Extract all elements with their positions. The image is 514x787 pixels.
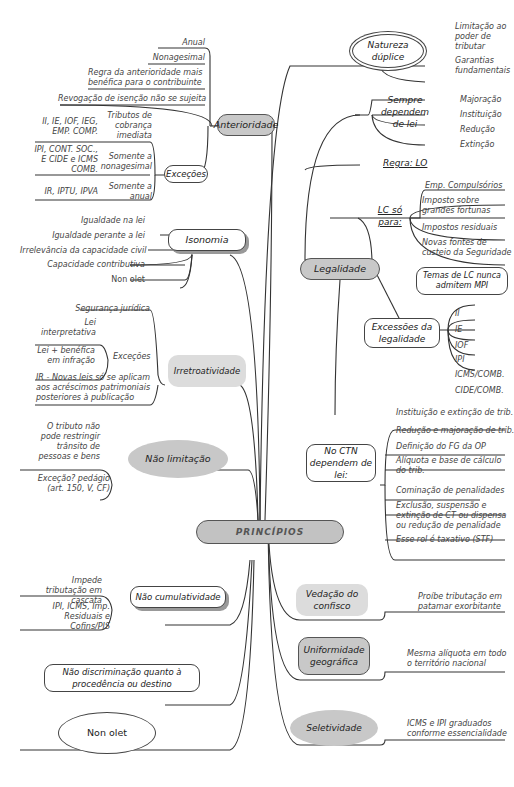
lc-item: Emp. Compulsórios: [425, 181, 502, 191]
nao-discriminacao-node[interactable]: Não discriminação quanto à procedência o…: [44, 664, 200, 692]
excecao-lei-benefica: Lei + benéfica em infração: [30, 346, 95, 366]
principios-root-node[interactable]: PRINCÍPIOS: [196, 520, 344, 544]
excessao-item: ICMS/COMB.: [455, 370, 504, 380]
regra-lo: Regra: LO: [383, 158, 427, 168]
excecao-lei-interpretativa: Lei interpretativa: [38, 318, 96, 338]
lc-nunca-mpi-note: Temas de LC nunca admitem MPI: [416, 267, 508, 295]
sempre-dependem-label: Sempre dependem de lei: [380, 93, 430, 131]
ctn-item: Definição do FG da OP: [396, 442, 486, 452]
nao-limitacao-node[interactable]: Não limitação: [128, 440, 228, 478]
isonomia-item: Irrelevância da capacidade civil: [20, 246, 145, 256]
excecoes-node[interactable]: Exceções: [164, 165, 208, 183]
irretroatividade-node[interactable]: Irretroatividade: [168, 355, 246, 387]
excessao-item: CIDE/COMB.: [455, 386, 504, 396]
excecao-type-nonagesimal: Somente a nonagesimal: [100, 152, 152, 172]
nao-cumulatividade-node[interactable]: Não cumulatividade: [130, 586, 226, 608]
vedacao-item: Proíbe tributação em patamar exorbitante: [418, 592, 508, 612]
isonomia-item: Capacidade contributiva: [40, 260, 145, 270]
nao-cumulatividade-item: IPI, ICMS, Imp. Residuais e Cofins/PIS: [30, 602, 110, 632]
seletividade-node[interactable]: Seletividade: [290, 710, 378, 746]
isonomia-item: Igualdade na lei: [60, 216, 145, 226]
excessao-item: IE: [455, 325, 462, 335]
excecao-taxes-imediata: II, IE, IOF, IEG, EMP. COMP.: [28, 117, 98, 137]
excecao-taxes-anual: IR, IPTU, IPVA: [28, 187, 98, 197]
natureza-item: Garantias fundamentais: [455, 56, 513, 76]
seletividade-item: ICMS e IPI graduados conforme essenciali…: [407, 719, 507, 739]
ctn-item: Exclusão, suspensão e extinção de CT ou …: [396, 501, 511, 531]
isonomia-node[interactable]: Isonomia: [168, 229, 246, 251]
isonomia-item: Non olet: [60, 275, 145, 285]
lc-item: Impostos residuais: [422, 223, 497, 233]
sempre-item: Extinção: [460, 140, 494, 150]
legalidade-node[interactable]: Legalidade: [300, 258, 380, 280]
excessao-item: II: [455, 309, 460, 319]
anterioridade-regra-benefica: Regra da anterioridade mais benéfica par…: [88, 68, 203, 88]
excecao-taxes-nonagesimal: IPI, CONT. SOC., E CIDE e ICMS COMB.: [28, 145, 98, 175]
irretroatividade-ir: IR - Novas leis só se aplicam aos acrésc…: [36, 373, 151, 403]
ctn-item: Cominação de penalidades: [396, 486, 504, 496]
lc-item: Imposto sobre grandes fortunas: [422, 196, 512, 216]
natureza-duplice-node[interactable]: Natureza dúplice: [352, 34, 424, 68]
uniformidade-item: Mesma alíquota em todo o território naci…: [407, 649, 507, 669]
anterioridade-nonagesimal: Nonagesimal: [130, 53, 205, 63]
excessao-item: IPI: [455, 355, 465, 365]
ctn-item: Alíquota e base de cálculo do trib.: [396, 456, 506, 476]
nao-limitacao-excecao: Exceção? pedágio (art. 150, V, CF): [30, 474, 110, 494]
lc-so-para-label: LC só para:: [370, 203, 410, 229]
irretroatividade-seguranca: Segurança jurídica: [60, 304, 150, 314]
lc-item: Novas fontes de custeio da Seguridade: [422, 238, 512, 258]
anterioridade-revogacao: Revogação de isenção não se sujeita: [58, 94, 206, 104]
excessoes-legalidade-node[interactable]: Excessões da legalidade: [364, 318, 440, 348]
nao-limitacao-item: O tributo não pode restringir trânsito d…: [30, 422, 100, 462]
uniformidade-geografica-node[interactable]: Uniformidade geográfica: [298, 637, 370, 675]
sempre-item: Instituição: [460, 110, 502, 120]
sempre-item: Redução: [460, 125, 495, 135]
isonomia-item: Igualdade perante a lei: [40, 231, 145, 241]
vedacao-confisco-node[interactable]: Vedação do confisco: [296, 584, 368, 616]
anterioridade-node[interactable]: Anterioridade: [217, 114, 275, 136]
non-olet-node[interactable]: Non olet: [58, 712, 156, 754]
anterioridade-anual: Anual: [150, 38, 205, 48]
sempre-item: Majoração: [460, 95, 501, 105]
ctn-item: Instituição e extinção de trib.: [396, 408, 513, 418]
ctn-item: Esse rol é taxativo (STF): [396, 535, 493, 545]
excessao-item: IOF: [455, 341, 468, 351]
ctn-dependem-node[interactable]: No CTN dependem de lei:: [306, 444, 376, 482]
irretroatividade-excecoes: Exceções: [113, 352, 151, 362]
excecao-type-anual: Somente a anual: [100, 182, 152, 202]
excecao-type-imediata: Tributos de cobrança imediata: [100, 111, 152, 141]
natureza-item: Limitação ao poder de tributar: [455, 22, 513, 52]
ctn-item: Redução e majoração de trib.: [396, 426, 514, 436]
